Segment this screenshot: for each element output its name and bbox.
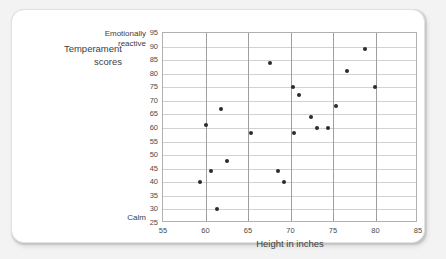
- y-axis-tick-label: 60: [132, 123, 158, 132]
- gridline-vertical: [333, 33, 334, 221]
- gridline-vertical: [291, 33, 292, 221]
- gridline-horizontal: [163, 128, 416, 129]
- x-axis-tick-label: 65: [233, 226, 263, 235]
- y-axis-tick-label: 80: [132, 69, 158, 78]
- y-axis-tick-label: 95: [132, 28, 158, 37]
- y-axis-tick-label: 55: [132, 137, 158, 146]
- data-point: [297, 93, 301, 97]
- scatter-plot-area: 2530354045505560657075808590955560657075…: [162, 32, 417, 222]
- y-axis-tick-label: 75: [132, 82, 158, 91]
- x-axis-tick-label: 85: [403, 226, 433, 235]
- x-axis-tick-label: 70: [276, 226, 306, 235]
- gridline-horizontal: [163, 114, 416, 115]
- x-axis-tick-label: 55: [148, 226, 178, 235]
- y-axis-tick-label: 35: [132, 191, 158, 200]
- gridline-horizontal: [163, 155, 416, 156]
- data-point: [282, 180, 286, 184]
- screenshot-canvas: Temperament scores Emotionally reactive …: [0, 0, 446, 259]
- data-point: [345, 69, 349, 73]
- data-point: [215, 207, 219, 211]
- data-point: [326, 126, 330, 130]
- data-point: [276, 169, 280, 173]
- data-point: [198, 180, 202, 184]
- data-point: [292, 131, 296, 135]
- y-axis-tick-label: 45: [132, 164, 158, 173]
- gridline-horizontal: [163, 169, 416, 170]
- y-axis-tick-label: 65: [132, 109, 158, 118]
- chart-card: Temperament scores Emotionally reactive …: [11, 9, 425, 243]
- x-axis-tick-label: 80: [361, 226, 391, 235]
- gridline-horizontal: [163, 196, 416, 197]
- data-point: [309, 115, 313, 119]
- data-point: [334, 104, 338, 108]
- gridline-vertical: [248, 33, 249, 221]
- y-axis-tick-label: 40: [132, 177, 158, 186]
- data-point: [209, 169, 213, 173]
- gridline-horizontal: [163, 209, 416, 210]
- y-axis-tick-label: 50: [132, 150, 158, 159]
- data-point: [373, 85, 377, 89]
- x-axis-tick-label: 60: [191, 226, 221, 235]
- gridline-vertical: [376, 33, 377, 221]
- gridline-horizontal: [163, 60, 416, 61]
- y-axis-tick-label: 30: [132, 204, 158, 213]
- y-axis-tick-label: 70: [132, 96, 158, 105]
- y-axis-tick-label: 85: [132, 55, 158, 64]
- data-point: [225, 159, 229, 163]
- x-axis-title: Height in inches: [162, 238, 418, 249]
- data-point: [219, 107, 223, 111]
- gridline-horizontal: [163, 87, 416, 88]
- gridline-horizontal: [163, 101, 416, 102]
- y-axis-tick-label: 90: [132, 42, 158, 51]
- data-point: [363, 47, 367, 51]
- data-point: [291, 85, 295, 89]
- data-point: [249, 131, 253, 135]
- gridline-horizontal: [163, 74, 416, 75]
- x-axis-tick-label: 75: [318, 226, 348, 235]
- data-point: [268, 61, 272, 65]
- y-axis-title-line2: scores: [30, 56, 122, 69]
- gridline-horizontal: [163, 47, 416, 48]
- data-point: [204, 123, 208, 127]
- data-point: [315, 126, 319, 130]
- gridline-horizontal: [163, 142, 416, 143]
